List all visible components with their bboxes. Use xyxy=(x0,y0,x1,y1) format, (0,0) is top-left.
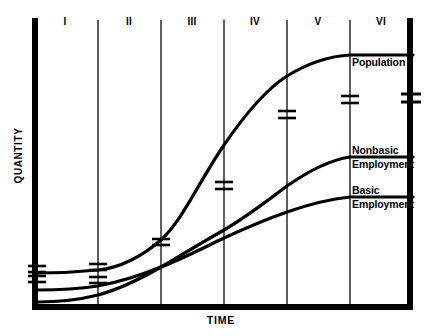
x-axis-line xyxy=(32,304,413,310)
series-label-population: Population xyxy=(352,56,405,68)
y-axis-title: QUANTITY xyxy=(13,121,24,191)
chart-container: I II III IV V VI Population Nonbasic Emp… xyxy=(0,0,442,336)
stage-label-iv: IV xyxy=(250,16,260,28)
stage-label-vi: VI xyxy=(376,16,386,28)
stage-label-ii: II xyxy=(126,16,132,28)
series-label-nonbasic-line1: Nonbasic xyxy=(352,144,398,156)
x-axis-title: TIME xyxy=(0,314,442,326)
series-label-basic-line1: Basic xyxy=(352,184,380,196)
stage-label-v: V xyxy=(315,16,322,28)
stage-label-i: I xyxy=(63,16,66,28)
series-label-nonbasic-line2: Employment xyxy=(352,158,414,170)
series-label-basic-line2: Employment xyxy=(352,198,414,210)
stage-label-iii: III xyxy=(187,16,196,28)
